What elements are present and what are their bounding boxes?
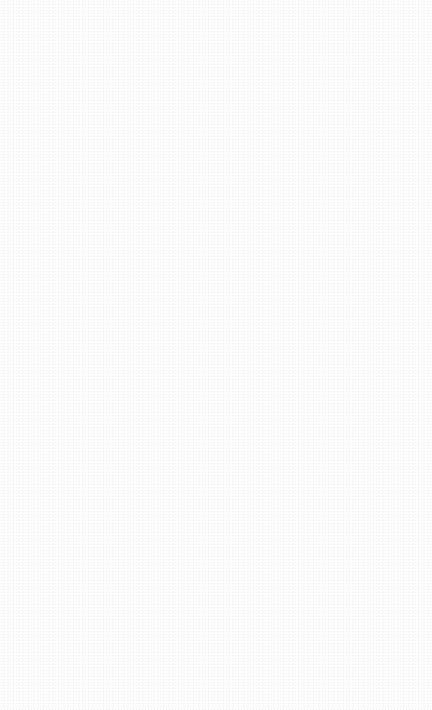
blank-screen bbox=[0, 0, 432, 710]
